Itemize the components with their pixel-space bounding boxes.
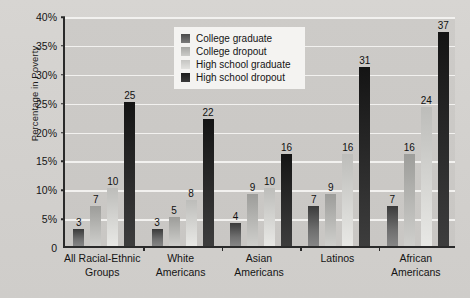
y-axis-tick-label: 0 bbox=[0, 242, 57, 254]
y-axis-tick-label: 10% bbox=[0, 184, 57, 196]
legend-swatch-icon bbox=[181, 60, 190, 69]
bar: 25 bbox=[124, 15, 135, 246]
bar: 16 bbox=[404, 15, 415, 246]
bar-value-label: 7 bbox=[378, 194, 407, 205]
bar-rect bbox=[281, 154, 292, 246]
bar-rect bbox=[107, 188, 118, 246]
legend-item: College graduate bbox=[181, 32, 298, 45]
y-axis-tick-label: 5% bbox=[0, 213, 57, 225]
bar-value-label: 22 bbox=[194, 107, 223, 118]
bar-value-label: 7 bbox=[81, 194, 110, 205]
legend-swatch-icon bbox=[181, 47, 190, 56]
bar-value-label: 31 bbox=[350, 55, 379, 66]
bar: 37 bbox=[438, 15, 449, 246]
bar: 24 bbox=[421, 15, 432, 246]
bar-value-label: 16 bbox=[395, 142, 424, 153]
bar-rect bbox=[308, 206, 319, 246]
bar-rect bbox=[73, 229, 84, 246]
bar-value-label: 10 bbox=[255, 176, 284, 187]
bar-value-label: 37 bbox=[429, 20, 458, 31]
bar-group: 7162437 bbox=[379, 17, 457, 246]
poverty-by-education-bar-chart: Percentage in Poverty 05%10%15%20%25%30%… bbox=[0, 0, 470, 298]
bar-group: 791631 bbox=[300, 17, 378, 246]
bar: 10 bbox=[107, 15, 118, 246]
bar-rect bbox=[359, 67, 370, 246]
x-axis-tick-mark bbox=[379, 246, 381, 251]
bar: 16 bbox=[342, 15, 353, 246]
legend-item: College dropout bbox=[181, 45, 298, 58]
bar-value-label: 4 bbox=[221, 211, 250, 222]
bar-value-label: 5 bbox=[160, 205, 189, 216]
legend-item: High school graduate bbox=[181, 58, 298, 71]
x-axis-labels: All Racial-EthnicGroupsWhiteAmericansAsi… bbox=[63, 252, 455, 292]
x-axis-tick-mark bbox=[300, 246, 302, 251]
bar-value-label: 16 bbox=[272, 142, 301, 153]
bar-rect bbox=[421, 107, 432, 246]
x-axis-label: AfricanAmericans bbox=[369, 252, 463, 279]
bar-rect bbox=[387, 206, 398, 246]
bar-rect bbox=[438, 32, 449, 246]
bar-value-label: 10 bbox=[98, 176, 127, 187]
bar-value-label: 3 bbox=[64, 217, 93, 228]
legend-label: High school graduate bbox=[196, 59, 291, 70]
legend-label: College dropout bbox=[196, 46, 267, 57]
bar-value-label: 24 bbox=[412, 95, 441, 106]
y-axis-title: Percentage in Poverty bbox=[29, 14, 40, 174]
bar-rect bbox=[264, 188, 275, 246]
bar-rect bbox=[169, 217, 180, 246]
bar-value-label: 9 bbox=[316, 182, 345, 193]
bar: 31 bbox=[359, 15, 370, 246]
chart-legend: College graduateCollege dropoutHigh scho… bbox=[174, 27, 305, 89]
bar-rect bbox=[90, 206, 101, 246]
legend-label: High school dropout bbox=[196, 72, 285, 83]
legend-swatch-icon bbox=[181, 73, 190, 82]
bar-rect bbox=[325, 194, 336, 246]
bar: 7 bbox=[308, 15, 319, 246]
bar-rect bbox=[186, 200, 197, 246]
bar: 3 bbox=[73, 15, 84, 246]
bar: 7 bbox=[90, 15, 101, 246]
bar-rect bbox=[247, 194, 258, 246]
bar-group: 371025 bbox=[65, 17, 143, 246]
bar: 9 bbox=[325, 15, 336, 246]
bar-value-label: 16 bbox=[333, 142, 362, 153]
legend-item: High school dropout bbox=[181, 71, 298, 84]
x-axis-tick-mark bbox=[143, 246, 145, 251]
bar-value-label: 25 bbox=[115, 90, 144, 101]
bar-rect bbox=[203, 119, 214, 246]
bar-value-label: 8 bbox=[177, 188, 206, 199]
bar-rect bbox=[404, 154, 415, 246]
legend-swatch-icon bbox=[181, 34, 190, 43]
bar: 7 bbox=[387, 15, 398, 246]
bar-rect bbox=[230, 223, 241, 246]
bar-rect bbox=[342, 154, 353, 246]
x-axis-tick-mark bbox=[222, 246, 224, 251]
bar-rect bbox=[152, 229, 163, 246]
bar-value-label: 7 bbox=[299, 194, 328, 205]
legend-label: College graduate bbox=[196, 33, 272, 44]
bar-rect bbox=[124, 102, 135, 246]
bar-value-label: 3 bbox=[143, 217, 172, 228]
